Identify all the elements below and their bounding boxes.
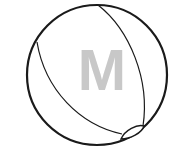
ball-letter: M [72,40,132,100]
